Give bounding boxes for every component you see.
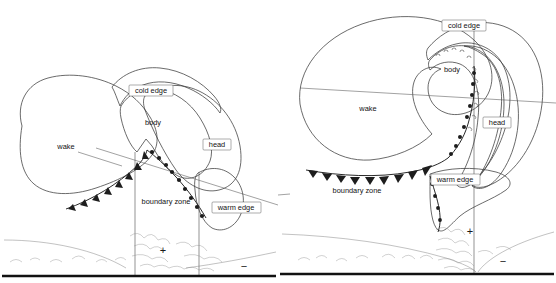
boundary-zone-label: boundary zone (142, 197, 191, 206)
warm-front-line (448, 66, 475, 158)
pressure-minus-sign: − (500, 255, 506, 267)
ground-sketch (4, 233, 276, 271)
head-label: head (209, 140, 225, 149)
cold-edge-label: cold edge (448, 21, 480, 30)
head-label: head (489, 118, 505, 127)
pressure-plus-sign: + (160, 244, 166, 256)
region-wake (300, 17, 492, 161)
region-cold-edge (427, 22, 543, 187)
wake-label: wake (56, 142, 74, 151)
ground-sketch (282, 227, 554, 272)
panel-right: cold edge body head wake warm edge bound… (278, 0, 556, 283)
pressure-plus-sign: + (467, 225, 473, 237)
panel-left-labels: cold edge body head wake warm edge bound… (56, 85, 261, 272)
pressure-minus-sign: − (241, 260, 247, 272)
cold-edge-label: cold edge (135, 86, 167, 95)
body-label: body (145, 118, 161, 127)
region-head (144, 85, 242, 190)
figure-root: cold edge body head wake warm edge bound… (0, 0, 556, 283)
boundary-zone-label: boundary zone (333, 186, 382, 195)
body-front-symbols (436, 48, 479, 131)
wake-label: wake (358, 104, 376, 113)
panel-right-labels: cold edge body head wake warm edge bound… (333, 20, 511, 267)
warm-edge-label: warm edge (217, 203, 255, 212)
cold-front-barbs (68, 151, 149, 211)
cold-front-barbs (308, 165, 432, 185)
cross-section-trace-left (278, 194, 290, 196)
warm-edge-label: warm edge (436, 175, 474, 184)
warm-front-bumps (150, 150, 204, 218)
panel-left: cold edge body head wake warm edge bound… (0, 0, 278, 283)
body-label: body (444, 65, 460, 74)
